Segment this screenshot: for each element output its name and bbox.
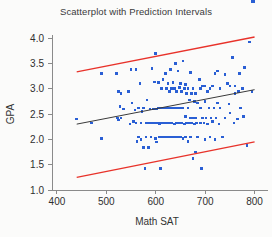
data-point xyxy=(131,102,134,105)
data-point xyxy=(187,87,190,90)
x-axis-label: Math SAT xyxy=(135,216,179,227)
data-point xyxy=(196,102,199,105)
data-point xyxy=(221,136,224,139)
data-point xyxy=(198,78,201,81)
data-point xyxy=(140,138,143,141)
data-point xyxy=(200,167,203,170)
data-point xyxy=(185,92,188,95)
data-point xyxy=(169,136,172,139)
data-point xyxy=(195,122,198,125)
data-point xyxy=(211,85,214,88)
data-point xyxy=(120,92,123,95)
data-point xyxy=(216,70,219,73)
data-point xyxy=(135,68,138,71)
data-point xyxy=(151,67,154,70)
data-point xyxy=(199,122,202,125)
data-point xyxy=(177,136,180,139)
axes-group xyxy=(52,35,268,190)
data-point xyxy=(155,141,158,144)
data-point xyxy=(75,118,78,121)
data-point xyxy=(182,60,185,63)
data-point xyxy=(179,136,182,139)
data-point xyxy=(187,140,190,143)
data-point xyxy=(174,107,177,110)
data-point xyxy=(204,100,207,103)
data-point xyxy=(201,85,204,88)
data-point xyxy=(140,122,143,125)
x-tick-label: 500 xyxy=(98,196,115,207)
data-point xyxy=(182,137,185,140)
data-point xyxy=(185,122,188,125)
data-point xyxy=(182,107,185,110)
data-point xyxy=(190,122,193,125)
data-point xyxy=(192,157,195,160)
data-point xyxy=(137,107,140,110)
data-point xyxy=(201,117,204,120)
x-ticks-group: 400500600700800 xyxy=(49,190,264,207)
data-point xyxy=(184,83,187,86)
data-point xyxy=(204,85,207,88)
data-point xyxy=(189,71,192,74)
data-point xyxy=(137,136,140,139)
data-point xyxy=(199,107,202,110)
data-point xyxy=(174,62,177,65)
data-point xyxy=(130,68,133,71)
data-point xyxy=(122,108,125,111)
data-point xyxy=(172,107,175,110)
data-point xyxy=(120,117,123,120)
data-point xyxy=(159,122,162,125)
prediction-interval-line xyxy=(77,142,255,177)
data-point xyxy=(150,122,153,125)
data-point xyxy=(224,73,227,76)
data-point xyxy=(218,123,221,126)
data-point xyxy=(188,99,191,102)
data-point xyxy=(160,136,163,139)
data-point xyxy=(136,140,139,143)
data-point xyxy=(246,144,249,147)
data-point xyxy=(154,52,157,55)
y-tick-label: 2.0 xyxy=(30,134,44,145)
data-point xyxy=(132,120,135,123)
data-point xyxy=(192,87,195,90)
data-point xyxy=(135,122,138,125)
data-point xyxy=(252,0,255,3)
data-point xyxy=(170,87,173,90)
data-point xyxy=(190,92,193,95)
data-point xyxy=(129,123,132,126)
data-point xyxy=(172,81,175,84)
data-point xyxy=(228,103,231,106)
data-point xyxy=(192,117,195,120)
data-point xyxy=(154,137,157,140)
data-point xyxy=(214,138,217,141)
data-point xyxy=(154,122,157,125)
data-point xyxy=(179,82,182,85)
y-tick-label: 3.0 xyxy=(30,83,44,94)
data-point xyxy=(164,72,167,75)
data-point xyxy=(117,90,120,93)
data-point xyxy=(231,56,234,59)
x-tick-label: 800 xyxy=(246,196,263,207)
data-point xyxy=(142,107,145,110)
y-tick-label: 1.0 xyxy=(30,185,44,196)
data-point xyxy=(206,90,209,93)
prediction-interval-line xyxy=(77,37,255,72)
data-point xyxy=(167,136,170,139)
data-point xyxy=(210,117,213,120)
data-point xyxy=(203,122,206,125)
data-point xyxy=(119,105,122,108)
data-point xyxy=(204,138,207,141)
data-point xyxy=(115,72,118,75)
data-point xyxy=(209,87,212,90)
x-tick-label: 700 xyxy=(197,196,214,207)
data-point xyxy=(177,70,180,73)
data-point xyxy=(139,82,142,85)
data-point xyxy=(173,87,176,90)
y-tick-label: 1.5 xyxy=(30,159,44,170)
data-point xyxy=(226,82,229,85)
data-point xyxy=(164,136,167,139)
data-point xyxy=(205,117,208,120)
scatterplot-figure: Scatterplot with Prediction Intervals 1.… xyxy=(0,0,272,237)
data-point xyxy=(90,122,93,125)
data-point xyxy=(219,107,222,110)
data-point xyxy=(241,87,244,90)
